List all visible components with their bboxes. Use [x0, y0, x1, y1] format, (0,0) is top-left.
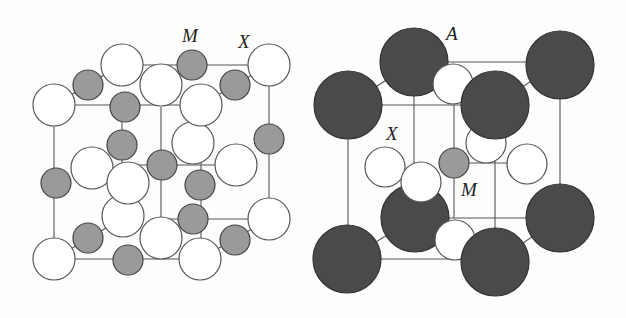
label-x-right: X	[385, 123, 399, 144]
atom-m	[41, 168, 71, 198]
atom-x	[140, 217, 182, 259]
atom-m	[220, 225, 250, 255]
label-a-right: A	[444, 23, 458, 44]
atom-m	[147, 150, 177, 180]
atom-m	[110, 92, 140, 122]
rock-salt-cell: M X	[33, 25, 290, 280]
atom-x	[507, 144, 547, 184]
atom-x	[107, 162, 149, 204]
atom-x	[248, 44, 290, 86]
atom-x	[140, 64, 182, 106]
atom-x	[401, 162, 441, 202]
atom-m	[220, 70, 250, 100]
perovskite-cell: A X M	[313, 23, 594, 296]
crystal-structures-figure: M X	[0, 0, 626, 318]
atom-a	[461, 228, 529, 296]
label-m-left: M	[181, 25, 199, 46]
atom-m	[107, 130, 137, 160]
atom-x	[101, 44, 143, 86]
atom-m	[185, 170, 215, 200]
label-x-left: X	[237, 31, 251, 52]
atom-m	[113, 245, 143, 275]
atom-x	[248, 198, 290, 240]
atom-a	[313, 225, 381, 293]
atom-x	[179, 238, 221, 280]
atom-a	[526, 184, 594, 252]
atom-x	[33, 84, 75, 126]
atom-m	[73, 70, 103, 100]
atom-x	[172, 122, 214, 164]
atom-m	[178, 204, 208, 234]
label-m-right: M	[460, 179, 478, 200]
atom-m	[254, 124, 284, 154]
atom-a	[314, 71, 382, 139]
atom-x	[215, 144, 257, 186]
atom-m	[73, 223, 103, 253]
atom-a	[526, 31, 594, 99]
atom-m	[177, 50, 207, 80]
atom-x	[33, 238, 75, 280]
atom-m	[439, 148, 469, 178]
atom-x	[365, 147, 405, 187]
atom-x	[180, 84, 222, 126]
atom-a	[461, 71, 529, 139]
